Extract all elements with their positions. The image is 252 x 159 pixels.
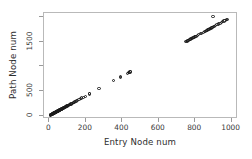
data-point [211, 15, 214, 18]
data-point [84, 95, 87, 98]
x-tick-mark [121, 118, 122, 122]
y-tick-mark [39, 16, 43, 17]
y-tick-mark [39, 65, 43, 66]
x-tick-label: 0 [46, 123, 51, 132]
y-tick-mark [39, 41, 43, 42]
data-point [129, 70, 132, 73]
x-axis-label: Entry Node num [43, 137, 237, 147]
data-point [112, 79, 115, 82]
y-tick-mark [39, 115, 43, 116]
x-tick-label: 800 [187, 123, 201, 132]
data-point [226, 18, 229, 21]
x-tick-label: 1000 [221, 123, 240, 132]
x-tick-mark [158, 118, 159, 122]
scatter-plot-figure: 02004006008001000 05001500 Entry Node nu… [0, 0, 252, 159]
x-tick-mark [231, 118, 232, 122]
x-tick-mark [48, 118, 49, 122]
y-tick-mark [39, 90, 43, 91]
x-tick-label: 600 [151, 123, 165, 132]
y-tick-label: 0 [25, 112, 34, 117]
plot-frame [43, 12, 237, 118]
data-point [97, 87, 100, 90]
y-tick-label: 1500 [25, 31, 34, 50]
data-point [88, 92, 91, 95]
plot-area [44, 13, 236, 117]
x-tick-label: 200 [78, 123, 92, 132]
x-tick-label: 400 [114, 123, 128, 132]
y-tick-label: 500 [25, 83, 34, 97]
x-tick-mark [85, 118, 86, 122]
y-axis-label: Path Node num [8, 31, 18, 99]
x-tick-mark [194, 118, 195, 122]
